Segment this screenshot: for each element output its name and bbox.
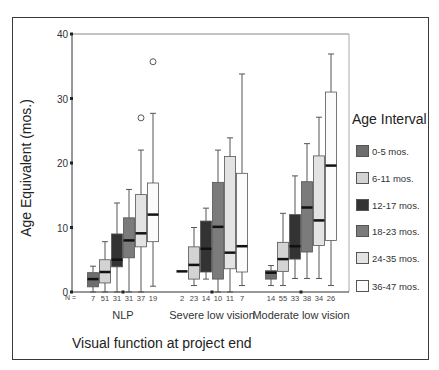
box [148,183,159,242]
legend-swatch [356,145,369,157]
legend-item: 12-17 mos. [356,198,420,212]
legend-title: Age Interval [352,111,427,127]
box [124,218,135,258]
legend-label: 12-17 mos. [372,200,420,211]
legend-label: 18-23 mos. [372,226,420,237]
sample-size-label: 23 [190,294,198,303]
y-tick-mark [70,33,73,36]
legend-swatch [356,199,369,211]
group-label: Severe low vision [169,309,255,321]
sample-size-label: 26 [327,294,335,303]
sample-size-label: 19 [149,294,157,303]
box [290,215,301,260]
outlier-point [138,115,144,121]
sample-size-label: 11 [226,294,234,303]
legend-label: 6-11 mos. [372,173,414,184]
legend-item: 6-11 mos. [356,171,414,185]
y-tick-label: 30 [52,93,68,104]
chart-root: Age Equivalent (mos.) 010203040 N = 7513… [0,0,439,370]
box [213,182,224,279]
legend-item: 18-23 mos. [356,224,420,238]
sample-size-label: 55 [279,294,287,303]
legend-item: 36-47 mos. [356,279,420,293]
box [201,221,212,272]
box [189,247,200,279]
legend-swatch [356,280,369,292]
legend-item: 0-5 mos. [356,144,409,158]
y-tick-label: 10 [52,222,68,233]
y-tick-label: 20 [52,158,68,169]
legend-swatch [356,252,369,264]
box [136,195,147,247]
legend-label: 0-5 mos. [372,146,409,157]
box [314,156,325,246]
sample-size-label: 14 [202,294,210,303]
sample-size-label: 31 [113,294,121,303]
y-tick-mark [70,97,73,100]
sample-size-label: 7 [91,294,95,303]
sample-size-label: 38 [303,294,311,303]
y-tick-mark [70,162,73,165]
group-label: Moderate low vision [252,309,349,321]
sample-size-label: 2 [180,294,184,303]
x-axis-title: Visual function at project end [72,335,252,351]
legend-swatch [356,172,369,184]
legend-label: 36-47 mos. [372,281,420,292]
group-label: NLP [112,309,133,321]
y-tick-label: 40 [52,29,68,40]
legend-item: 24-35 mos. [356,251,420,265]
sample-size-label: 10 [214,294,222,303]
box [237,173,248,272]
box [278,242,289,271]
sample-size-label: 14 [267,294,275,303]
y-tick-mark [70,226,73,229]
legend-swatch [356,225,369,237]
y-axis-title: Age Equivalent (mos.) [18,99,34,237]
sample-size-label: 37 [137,294,145,303]
n-prefix-label: N = [65,294,76,301]
legend-label: 24-35 mos. [372,253,420,264]
box [302,182,313,252]
sample-size-label: 34 [315,294,323,303]
outlier-point [150,59,156,65]
box [112,234,123,267]
sample-size-label: 31 [125,294,133,303]
sample-size-label: 33 [291,294,299,303]
sample-size-label: 51 [101,294,109,303]
sample-size-label: 7 [240,294,244,303]
